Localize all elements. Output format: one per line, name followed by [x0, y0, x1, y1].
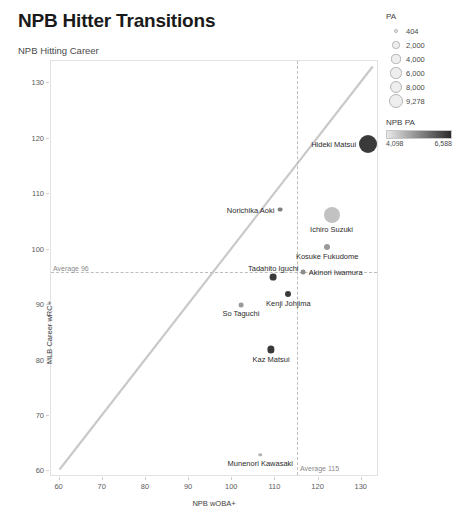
- y-axis-tick-label: 90: [18, 300, 44, 309]
- average-x-line-label: Average 115: [300, 465, 339, 472]
- data-point[interactable]: [324, 244, 330, 250]
- color-legend-min: 4,098: [386, 140, 404, 147]
- x-axis-tick-mark: [361, 477, 362, 480]
- data-point-label: Hideki Matsui: [311, 140, 356, 149]
- x-axis-tick-label: 100: [216, 482, 246, 491]
- data-point[interactable]: [359, 135, 377, 153]
- y-axis-tick-mark: [46, 470, 49, 471]
- x-axis-title: NPB wOBA+: [50, 499, 378, 508]
- color-legend: NPB PA 4,098 6,588: [386, 118, 454, 147]
- y-axis-tick-label: 60: [18, 466, 44, 475]
- size-legend-item: 404: [386, 24, 458, 38]
- size-legend-item: 6,000: [386, 66, 458, 80]
- data-point-label: Tadahito Iguchi: [248, 263, 298, 272]
- size-legend-bubble: [390, 67, 401, 78]
- size-legend-bubble: [390, 81, 403, 94]
- size-legend-value: 2,000: [406, 41, 425, 50]
- data-point-label: Munenori Kawasaki: [228, 458, 293, 467]
- scatter-plot-area[interactable]: Average 115Average 96Hideki MatsuiNorich…: [50, 60, 378, 476]
- data-point-label: Akinori Iwamura: [309, 267, 363, 276]
- y-axis-tick-label: 100: [18, 244, 44, 253]
- x-axis-tick-label: 80: [130, 482, 160, 491]
- x-axis-tick-mark: [274, 477, 275, 480]
- size-legend-value: 4,000: [406, 55, 425, 64]
- data-point[interactable]: [270, 274, 277, 281]
- y-axis-tick-mark: [46, 304, 49, 305]
- data-point[interactable]: [268, 346, 275, 353]
- x-axis-tick-mark: [231, 477, 232, 480]
- x-axis-tick-label: 130: [346, 482, 376, 491]
- color-gradient-bar: [386, 130, 452, 139]
- size-legend-bubble: [389, 94, 403, 108]
- x-axis-tick-label: 70: [87, 482, 117, 491]
- chart-page: NPB Hitter Transitions NPB Hitting Caree…: [0, 0, 458, 516]
- data-point-label: Norichika Aoki: [227, 205, 275, 214]
- size-legend-item: 2,000: [386, 38, 458, 52]
- x-axis-tick-label: 60: [44, 482, 74, 491]
- chart-subtitle: NPB Hitting Career: [18, 45, 99, 56]
- x-axis-tick-mark: [188, 477, 189, 480]
- size-legend: PA 4042,0004,0006,0008,0009,278: [386, 12, 458, 108]
- size-legend-title: PA: [386, 12, 458, 21]
- y-axis-tick-label: 80: [18, 355, 44, 364]
- size-legend-item: 9,278: [386, 94, 458, 108]
- y-axis-tick-label: 130: [18, 78, 44, 87]
- y-axis-tick-mark: [46, 138, 49, 139]
- color-legend-scale: 4,098 6,588: [386, 140, 452, 147]
- data-point-label: Ichiro Suzuki: [310, 224, 353, 233]
- color-legend-max: 6,588: [434, 140, 452, 147]
- x-axis-tick-label: 110: [259, 482, 289, 491]
- y-axis-tick-mark: [46, 249, 49, 250]
- color-legend-title: NPB PA: [386, 118, 454, 127]
- size-legend-value: 8,000: [406, 83, 425, 92]
- y-axis-tick-mark: [46, 193, 49, 194]
- data-point-label: Kosuke Fukudome: [296, 251, 359, 260]
- x-axis-tick-mark: [145, 477, 146, 480]
- data-point-label: So Taguchi: [222, 309, 259, 318]
- x-axis-tick-label: 120: [303, 482, 333, 491]
- y-axis-tick-mark: [46, 415, 49, 416]
- data-point[interactable]: [259, 453, 263, 457]
- data-point[interactable]: [277, 207, 282, 212]
- x-axis-tick-mark: [318, 477, 319, 480]
- size-legend-value: 6,000: [406, 69, 425, 78]
- size-legend-value: 9,278: [406, 97, 425, 106]
- data-point[interactable]: [301, 269, 306, 274]
- size-legend-bubble: [394, 29, 399, 34]
- page-top-edge: [0, 0, 458, 5]
- size-legend-item: 4,000: [386, 52, 458, 66]
- data-point[interactable]: [324, 207, 340, 223]
- size-legend-value: 404: [406, 27, 419, 36]
- y-axis-tick-label: 70: [18, 410, 44, 419]
- page-title: NPB Hitter Transitions: [18, 10, 215, 32]
- data-point-label: Kaz Matsui: [253, 355, 290, 364]
- data-point-label: Kenji Johjima: [266, 298, 311, 307]
- data-point[interactable]: [285, 291, 291, 297]
- y-axis-tick-mark: [46, 82, 49, 83]
- y-axis-tick-label: 110: [18, 189, 44, 198]
- x-axis-tick-mark: [102, 477, 103, 480]
- data-point[interactable]: [238, 303, 243, 308]
- average-y-line-label: Average 96: [53, 265, 89, 272]
- size-legend-item: 8,000: [386, 80, 458, 94]
- y-axis-tick-mark: [46, 360, 49, 361]
- size-legend-bubble: [392, 41, 399, 48]
- y-axis-tick-label: 120: [18, 133, 44, 142]
- size-legend-bubble: [391, 54, 400, 63]
- x-axis-tick-mark: [59, 477, 60, 480]
- x-axis-tick-label: 90: [173, 482, 203, 491]
